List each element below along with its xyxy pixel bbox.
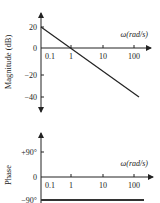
magnitude-y-axis-label: Magnitude (dB) — [3, 35, 13, 90]
bode-plot: 20 0 −20 −40 0.1 1 10 100 ω(rad/s) Magni… — [0, 0, 160, 203]
x-tick-label: 0.1 — [45, 181, 55, 190]
phase-x-axis-label: ω(rad/s) — [121, 159, 149, 168]
y-tick-label: −40 — [24, 93, 37, 102]
phase-y-axis-label: Phase — [3, 165, 13, 185]
y-tick-label: 20 — [29, 23, 37, 32]
y-tick-label: 0 — [33, 173, 37, 182]
magnitude-plot: 20 0 −20 −40 0.1 1 10 100 ω(rad/s) Magni… — [3, 13, 151, 112]
phase-plot: +90° 0 −90° 0.1 1 10 100 ω(rad/s) Phase — [3, 133, 153, 203]
magnitude-x-axis-label: ω(rad/s) — [121, 30, 149, 39]
y-tick-label: −90° — [21, 196, 37, 203]
x-tick-label: 0.1 — [45, 52, 55, 61]
x-tick-label: 100 — [128, 52, 140, 61]
x-tick-label: 10 — [99, 52, 107, 61]
y-tick-label: −20 — [24, 71, 37, 80]
y-tick-label: +90° — [21, 148, 37, 157]
x-tick-label: 1 — [69, 52, 73, 61]
y-tick-label: 0 — [33, 44, 37, 53]
x-tick-label: 100 — [128, 181, 140, 190]
x-tick-label: 10 — [99, 181, 107, 190]
x-tick-label: 1 — [69, 181, 73, 190]
